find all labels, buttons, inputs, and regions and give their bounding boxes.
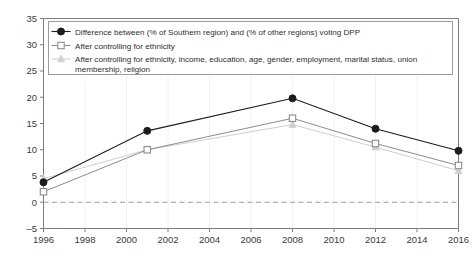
y-tick-label: 20	[26, 92, 37, 103]
data-point-filled-circle	[289, 95, 296, 102]
y-tick-label: 15	[26, 118, 37, 129]
y-tick-label: 0	[32, 197, 37, 208]
data-point-open-square	[455, 162, 461, 168]
y-tick-label: 30	[26, 39, 37, 50]
legend-marker-filled-circle	[58, 28, 65, 35]
x-tick-label: 2000	[116, 234, 137, 245]
data-point-open-square	[372, 140, 378, 146]
line-chart: 35302520151050–5 19961998200020022004200…	[0, 0, 474, 259]
data-point-filled-circle	[455, 147, 462, 154]
x-tick-label: 1996	[33, 234, 54, 245]
data-point-filled-circle	[40, 179, 47, 186]
legend-marker-open-square	[58, 42, 64, 48]
data-point-filled-circle	[372, 125, 379, 132]
x-tick-label: 2006	[240, 234, 261, 245]
x-tick-label: 2014	[406, 234, 427, 245]
x-tick-label: 1998	[74, 234, 95, 245]
data-point-open-square	[289, 115, 295, 121]
data-point-filled-circle	[58, 28, 65, 35]
legend: Difference between (% of Southern region…	[49, 22, 453, 75]
data-point-open-square	[40, 189, 46, 195]
y-tick-label: 25	[26, 65, 37, 76]
x-tick-label: 2008	[282, 234, 303, 245]
y-tick-label: 5	[32, 170, 37, 181]
x-tick-label: 2012	[365, 234, 386, 245]
y-tick-label: 35	[26, 13, 37, 24]
x-tick-label: 2016	[448, 234, 469, 245]
legend-item-label: After controlling for ethnicity, income,…	[75, 55, 417, 64]
chart-figure: 35302520151050–5 19961998200020022004200…	[0, 0, 474, 259]
y-tick-label: –5	[26, 223, 37, 234]
legend-item-label: Difference between (% of Southern region…	[75, 28, 360, 37]
y-tick-label: 10	[26, 144, 37, 155]
legend-item-label: After controlling for ethnicity	[75, 42, 176, 51]
x-tick-label: 2002	[157, 234, 178, 245]
x-tick-label: 2004	[199, 234, 220, 245]
data-point-filled-circle	[144, 127, 151, 134]
data-point-open-square	[144, 147, 150, 153]
legend-item-label-line2: membership, religion	[75, 65, 150, 74]
x-tick-label: 2010	[323, 234, 344, 245]
data-point-open-square	[58, 42, 64, 48]
